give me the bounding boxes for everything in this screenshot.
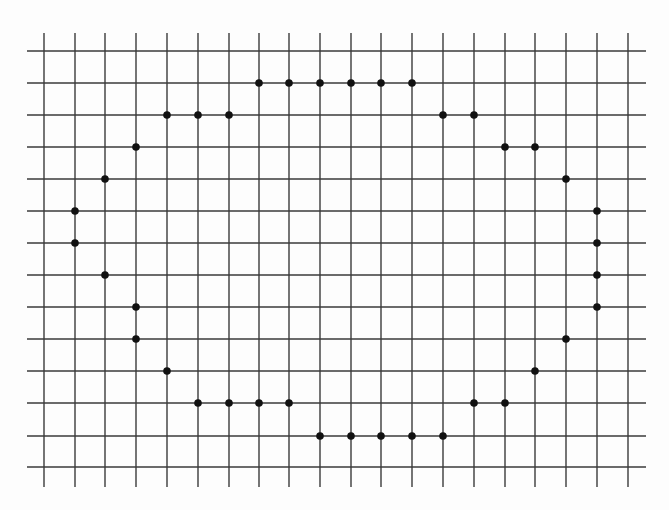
grid-dot: [101, 175, 109, 183]
grid-dot: [470, 111, 478, 119]
grid-dot: [132, 143, 140, 151]
grid-dot: [255, 79, 263, 87]
grid-dot: [163, 111, 171, 119]
grid-dot: [439, 432, 447, 440]
vertical-grid-lines: [44, 33, 628, 487]
grid-dot: [593, 271, 601, 279]
grid-dot: [132, 303, 140, 311]
grid-dot: [316, 432, 324, 440]
grid-dot: [194, 111, 202, 119]
grid-dot: [470, 399, 478, 407]
grid-drawing: [0, 0, 669, 510]
grid-dot: [562, 335, 570, 343]
grid-dot: [347, 79, 355, 87]
dot-grid-diagram: [0, 0, 669, 510]
grid-dot: [593, 239, 601, 247]
grid-dot: [71, 207, 79, 215]
grid-dot: [593, 207, 601, 215]
grid-dot: [408, 79, 416, 87]
horizontal-grid-lines: [27, 51, 646, 467]
grid-dot: [71, 239, 79, 247]
grid-dot: [225, 111, 233, 119]
grid-dot: [194, 399, 202, 407]
grid-dot: [501, 399, 509, 407]
grid-dot: [132, 335, 140, 343]
grid-dot: [347, 432, 355, 440]
grid-dot: [377, 432, 385, 440]
grid-dot: [408, 432, 416, 440]
grid-dot: [531, 143, 539, 151]
shape-dots: [71, 79, 601, 440]
grid-dot: [285, 399, 293, 407]
grid-dot: [593, 303, 601, 311]
grid-dot: [377, 79, 385, 87]
grid-dot: [501, 143, 509, 151]
grid-dot: [163, 367, 171, 375]
grid-dot: [225, 399, 233, 407]
grid-dot: [285, 79, 293, 87]
grid-dot: [316, 79, 324, 87]
grid-dot: [255, 399, 263, 407]
grid-dot: [439, 111, 447, 119]
grid-dot: [562, 175, 570, 183]
grid-dot: [531, 367, 539, 375]
grid-dot: [101, 271, 109, 279]
